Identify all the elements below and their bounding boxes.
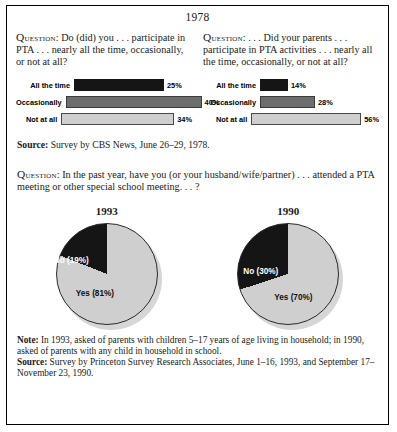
- bar-row: Occasionally 28%: [203, 96, 379, 108]
- pie-chart-1993: [56, 223, 158, 325]
- bar-fill: [260, 96, 315, 108]
- pie-block-1993: 1993 No (19%) Yes (81%): [16, 205, 198, 325]
- scan-edge-artifact: [0, 0, 397, 4]
- bar-fill: [260, 79, 288, 91]
- bar-category-label: Occasionally: [16, 98, 66, 107]
- pie-year-label: 1993: [16, 205, 198, 217]
- question-label-pta-meeting: Question: [17, 169, 57, 180]
- bar-wrap: 14%: [260, 79, 306, 91]
- bar-row: Not at all 34%: [16, 113, 192, 125]
- bar-chart-self-participation: All the time 25% Occasionally 40% Not at…: [16, 79, 192, 125]
- bar-category-label: All the time: [16, 81, 74, 90]
- bar-row: All the time 14%: [203, 79, 379, 91]
- bar-category-label: All the time: [203, 81, 260, 90]
- bar-category-label: Not at all: [16, 115, 61, 124]
- bar-value-label: 28%: [318, 98, 333, 107]
- source-text: Survey by CBS News, June 26–29, 1978.: [48, 139, 210, 150]
- source-line-1978: Source: Survey by CBS News, June 26–29, …: [7, 130, 388, 151]
- bar-category-label: Not at all: [203, 115, 251, 124]
- note-text: In 1993, asked of parents with children …: [17, 335, 364, 356]
- source-label: Source:: [17, 139, 48, 150]
- bar-wrap: 28%: [260, 96, 333, 108]
- pie-slice-label-yes: Yes (70%): [274, 293, 312, 302]
- question-label-right: Question: [203, 32, 243, 43]
- source-label: Source:: [17, 357, 47, 367]
- pie-year-label: 1990: [198, 205, 380, 217]
- bar-category-label: Occasionally: [203, 98, 260, 107]
- bar-row: All the time 25%: [16, 79, 192, 91]
- bar-fill: [74, 79, 164, 91]
- source-text: Survey by Princeton Survey Research Asso…: [17, 357, 374, 378]
- pie-holder-1990: No (30%) Yes (70%): [237, 223, 339, 325]
- pie-block-1990: 1990 No (30%) Yes (70%): [198, 205, 380, 325]
- question-text-pta-meeting: Question: In the past year, have you (or…: [7, 151, 388, 194]
- note-line: Note: In 1993, asked of parents with chi…: [7, 325, 388, 358]
- bar-wrap: 56%: [251, 113, 379, 125]
- bar-row: Occasionally 40%: [16, 96, 192, 108]
- pie-slice-label-no: No (19%): [54, 256, 89, 265]
- pie-slice-label-yes: Yes (81%): [76, 289, 114, 298]
- pie-chart-row: 1993 No (19%) Yes (81%) 1990 No (30%) Ye…: [7, 205, 388, 325]
- question-body-pta-meeting: : In the past year, have you (or your hu…: [17, 169, 374, 192]
- bar-fill: [66, 96, 202, 108]
- note-label: Note:: [17, 335, 39, 345]
- question-label-left: Question: [16, 32, 56, 43]
- question-column-left: Question: Do (did) you . . . participate…: [16, 31, 192, 130]
- bar-row: Not at all 56%: [203, 113, 379, 125]
- bar-value-label: 56%: [364, 115, 379, 124]
- bar-wrap: 25%: [74, 79, 182, 91]
- bar-fill: [251, 113, 361, 125]
- bar-value-label: 14%: [291, 81, 306, 90]
- bar-fill: [61, 113, 174, 125]
- top-year-heading: 1978: [7, 6, 388, 23]
- bar-wrap: 34%: [61, 113, 192, 125]
- bar-chart-parents-participation: All the time 14% Occasionally 28% Not at…: [203, 79, 379, 125]
- bar-value-label: 34%: [177, 115, 192, 124]
- polling-data-card: 1978 Question: Do (did) you . . . partic…: [6, 5, 389, 425]
- bar-value-label: 25%: [167, 81, 182, 90]
- source-line-pta-meeting: Source: Survey by Princeton Survey Resea…: [7, 357, 388, 380]
- question-text-left: Question: Do (did) you . . . participate…: [16, 31, 192, 68]
- pie-slice-label-no: No (30%): [243, 267, 278, 276]
- pie-holder-1993: No (19%) Yes (81%): [56, 223, 158, 325]
- bar-wrap: 40%: [66, 96, 220, 108]
- question-column-right: Question: . . . Did your parents . . . p…: [203, 31, 379, 130]
- question-row-1978: Question: Do (did) you . . . participate…: [7, 23, 388, 130]
- question-text-right: Question: . . . Did your parents . . . p…: [203, 31, 379, 68]
